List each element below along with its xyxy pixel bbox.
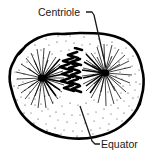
diagram-canvas: Centriole Equator [0, 0, 157, 160]
left-centriole-body [38, 75, 46, 82]
equator-label: Equator [101, 138, 138, 150]
centriole-label: Centriole [38, 6, 80, 18]
mitosis-diagram: Centriole Equator [0, 0, 157, 160]
right-centriole-body [101, 70, 109, 77]
